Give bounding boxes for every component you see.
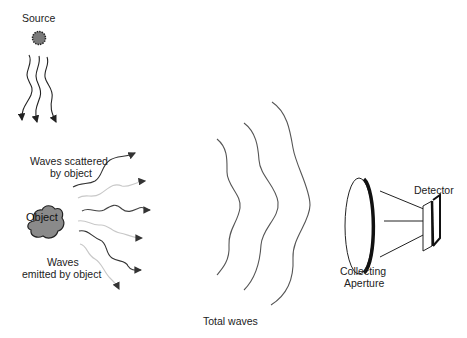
scattered-label-line1: Waves scattered [30,155,108,167]
detector [423,195,440,251]
emitted-label-line1: Waves [47,256,79,268]
emitted-label-line2: emitted by object [22,268,101,280]
source-waves [22,55,56,122]
source-label: Source [22,12,55,24]
total-waves [217,102,310,305]
object-label: Object [26,211,58,223]
source-icon [33,32,46,45]
aperture-label-line2: Aperture [344,277,384,289]
aperture-label-line1: Collecting [340,265,386,277]
collecting-aperture [345,178,373,274]
scattered-label-line2: by object [50,167,92,179]
detector-label: Detector [414,184,454,196]
total-waves-label: Total waves [203,315,258,327]
